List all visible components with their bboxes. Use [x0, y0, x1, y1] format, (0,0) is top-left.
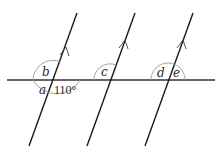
angle-label-110: 110° [54, 83, 77, 97]
angle-label-b: b [42, 65, 50, 79]
angle-label-c: c [101, 65, 108, 79]
angle-label-a: a [39, 83, 46, 97]
diagram-canvas: b a 110° c d e [0, 0, 221, 155]
angle-label-d: d [157, 66, 165, 80]
angle-label-e: e [173, 66, 180, 80]
